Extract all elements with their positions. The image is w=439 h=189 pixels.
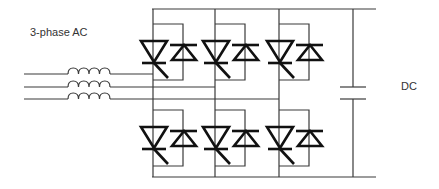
lower-thyristor-diode-icon	[141, 110, 197, 166]
upper-thyristor-diode-icon	[267, 24, 323, 80]
leg-3	[267, 9, 323, 177]
dc-capacitor-icon	[340, 9, 366, 177]
leg-1	[141, 9, 197, 177]
leg-2	[203, 9, 259, 177]
lower-thyristor-diode-icon	[267, 110, 323, 166]
lower-thyristor-diode-icon	[203, 110, 259, 166]
ac-phase-a	[24, 68, 153, 74]
inductor-icon	[68, 68, 110, 74]
upper-thyristor-diode-icon	[203, 24, 259, 80]
inductor-icon	[68, 81, 110, 87]
ac-phase-b	[24, 81, 215, 87]
upper-thyristor-diode-icon	[141, 24, 197, 80]
ac-phase-c	[24, 93, 279, 99]
inductor-icon	[68, 93, 110, 99]
circuit-diagram	[0, 0, 439, 189]
